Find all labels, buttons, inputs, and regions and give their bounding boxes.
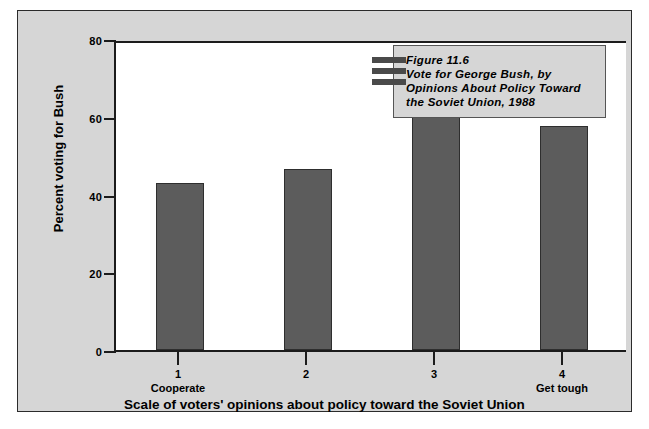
title-bar-3 xyxy=(372,79,406,85)
y-axis-tick-label: 0 xyxy=(58,346,102,358)
y-axis-tick xyxy=(104,351,116,353)
y-axis-tick xyxy=(104,273,116,275)
x-axis-tick-sublabel: Get tough xyxy=(492,382,632,394)
x-axis-tick-label: 2 xyxy=(246,368,366,380)
x-axis-tick-label: 4 xyxy=(502,368,622,380)
x-axis-tick xyxy=(177,352,179,365)
figure-title-box: Figure 11.6 Vote for George Bush, by Opi… xyxy=(393,45,606,118)
title-bar-1 xyxy=(372,57,406,63)
y-axis-tick xyxy=(104,118,116,120)
bar xyxy=(540,126,588,350)
y-axis-tick xyxy=(104,196,116,198)
figure-container: 020406080 Percent voting for Bush 1Coope… xyxy=(0,0,649,429)
bar xyxy=(156,183,204,350)
figure-title-line-4: the Soviet Union, 1988 xyxy=(406,95,597,109)
y-axis-title: Percent voting for Bush xyxy=(51,59,66,259)
y-axis-tick-label: 20 xyxy=(58,268,102,280)
y-axis-tick xyxy=(104,40,116,42)
y-axis-tick-label: 80 xyxy=(58,35,102,47)
figure-title-line-1: Figure 11.6 xyxy=(406,53,597,67)
x-axis-tick-label: 3 xyxy=(374,368,494,380)
title-bar-2 xyxy=(372,68,406,74)
bar xyxy=(412,115,460,350)
figure-outer-frame: 020406080 Percent voting for Bush 1Coope… xyxy=(17,10,632,412)
title-decoration-bars xyxy=(372,57,406,90)
x-axis-tick xyxy=(561,352,563,365)
x-axis-tick xyxy=(433,352,435,365)
figure-title-line-3: Opinions About Policy Toward xyxy=(406,81,597,95)
x-axis-title: Scale of voters' opinions about policy t… xyxy=(18,397,631,412)
x-axis-tick-label: 1 xyxy=(118,368,238,380)
bar xyxy=(284,169,332,350)
x-axis-tick-sublabel: Cooperate xyxy=(108,382,248,394)
x-axis-tick xyxy=(305,352,307,365)
figure-title-line-2: Vote for George Bush, by xyxy=(406,67,597,81)
